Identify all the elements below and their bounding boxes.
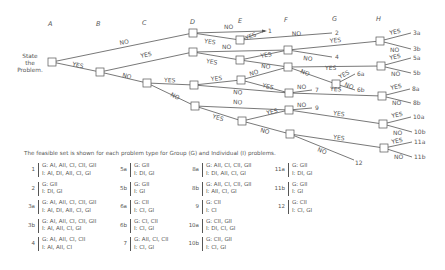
legend-individual-set: I: DI, CI, GI	[206, 225, 235, 231]
branch-label-yes: YES	[389, 82, 403, 91]
node-e4[interactable]	[238, 117, 246, 125]
node-c[interactable]	[143, 79, 151, 87]
legend-individual-set: I: DI, GI	[134, 170, 154, 176]
node-f12[interactable]	[286, 130, 294, 138]
legend-id: 12	[278, 203, 285, 209]
legend-id: 9	[196, 203, 200, 209]
legend-id: 1	[32, 166, 36, 172]
legend-id: 2	[32, 185, 36, 191]
legend-id: 4	[32, 240, 36, 246]
terminal-8b: 8b	[413, 99, 421, 106]
legend-bracket	[130, 237, 131, 251]
legend-id: 11b	[275, 185, 286, 191]
terminal-8a: 8a	[412, 85, 420, 92]
terminal-3b: 3b	[413, 45, 421, 52]
legend-bracket	[202, 200, 203, 214]
branch-label-yes: YES	[265, 107, 279, 117]
node-f9[interactable]	[285, 106, 293, 114]
branch-label-no: NO	[317, 145, 328, 155]
terminal-11a: 11a	[414, 138, 426, 145]
legend-id: 10b	[189, 240, 200, 246]
node-h8[interactable]	[378, 92, 386, 100]
legend-individual-set: I: AII, CI, GI	[206, 188, 237, 194]
branch-label-no: NO	[233, 88, 243, 96]
legend-id: 3b	[28, 222, 35, 228]
terminal-4: 4	[335, 53, 339, 60]
branch-label-yes: YES	[163, 76, 176, 83]
legend-bracket	[130, 200, 131, 214]
column-g-label: G	[332, 15, 337, 23]
node-a[interactable]	[48, 58, 56, 66]
branch-label-yes: YES	[261, 81, 275, 91]
legend-bracket	[130, 163, 131, 177]
branch-label-yes: YES	[209, 74, 222, 82]
branch-label-yes: YES	[211, 112, 225, 122]
node-d4[interactable]	[191, 102, 199, 110]
node-e1[interactable]	[236, 36, 244, 44]
node-h5[interactable]	[377, 62, 385, 70]
terminal-1: 1	[268, 27, 272, 34]
node-d3[interactable]	[190, 81, 198, 89]
node-h10[interactable]	[379, 120, 387, 128]
legend-bracket	[38, 182, 39, 196]
legend-group-set: G: GII	[292, 162, 307, 168]
legend-individual-set: I: DI, GI	[42, 188, 62, 194]
node-d2[interactable]	[189, 48, 197, 56]
node-f2[interactable]	[284, 46, 292, 54]
node-h3[interactable]	[376, 37, 384, 45]
branch-label-yes: YES	[205, 57, 218, 66]
legend-individual-set: I: CI, GI	[206, 244, 226, 250]
arrow-head-icon	[262, 30, 267, 33]
branch-label-no: NO	[224, 23, 233, 30]
branch-label-no: NO	[261, 62, 271, 70]
branch-label-yes: YES	[328, 36, 341, 44]
legend-id: 11a	[275, 166, 285, 172]
legend-group-set: G: AII, CI, CII, GII	[206, 162, 251, 168]
legend-group-set: G: GII	[292, 181, 307, 187]
legend-id: 8a	[192, 166, 199, 172]
node-b[interactable]	[96, 68, 104, 76]
node-f7[interactable]	[285, 89, 293, 97]
start-label-line-1: State	[22, 53, 38, 59]
legend-bracket	[202, 237, 203, 251]
node-e2[interactable]	[236, 56, 244, 64]
legend-id: 3a	[28, 203, 35, 209]
legend-bracket	[202, 182, 203, 196]
column-h-label: H	[376, 15, 381, 23]
legend-individual-set: I: AI, DI, AII, CI, GI	[42, 170, 91, 176]
legend-bracket	[38, 200, 39, 214]
terminal-2: 2	[335, 29, 339, 36]
legend-bracket	[38, 219, 39, 233]
legend-group-set: G: AI, AII, CI, CII, GII	[42, 199, 96, 205]
legend-group-set: G: GII	[134, 181, 149, 187]
legend-individual-set: I: CI, GI	[134, 207, 154, 213]
node-e3[interactable]	[237, 76, 245, 84]
legend-individual-set: I: CI	[206, 207, 217, 213]
start-label-line-3: Problem.	[17, 67, 43, 73]
legend-bracket	[38, 163, 39, 177]
column-headers: A B C D E F G H	[47, 15, 381, 28]
branch-label-no: NO	[119, 37, 130, 46]
branch-label-no: NO	[260, 126, 271, 135]
branch-label-yes: YES	[390, 110, 404, 119]
branch-label-no: NO	[170, 91, 182, 101]
start-label-line-2: the	[25, 60, 35, 66]
node-d1[interactable]	[189, 29, 197, 37]
legend-group-set: G: AII, CI, CII	[134, 236, 168, 242]
column-a-label: A	[47, 20, 52, 28]
branch-label-no: NO	[233, 98, 243, 105]
column-c-label: C	[142, 19, 147, 27]
legend-group-set: G: GII	[42, 181, 57, 187]
node-f3[interactable]	[284, 63, 292, 71]
branch-label-no: NO	[392, 99, 401, 106]
start-label: State the Problem.	[17, 53, 43, 73]
column-e-label: E	[238, 17, 243, 25]
legend-individual-set: I: CI, GI	[134, 225, 154, 231]
branch-label-no: NO	[394, 153, 403, 160]
column-d-label: D	[190, 18, 195, 26]
legend-id: 5a	[120, 166, 127, 172]
column-f-label: F	[284, 16, 288, 24]
legend-bracket	[288, 200, 289, 214]
branch-label-yes: YES	[203, 37, 216, 46]
node-h11[interactable]	[380, 144, 388, 152]
